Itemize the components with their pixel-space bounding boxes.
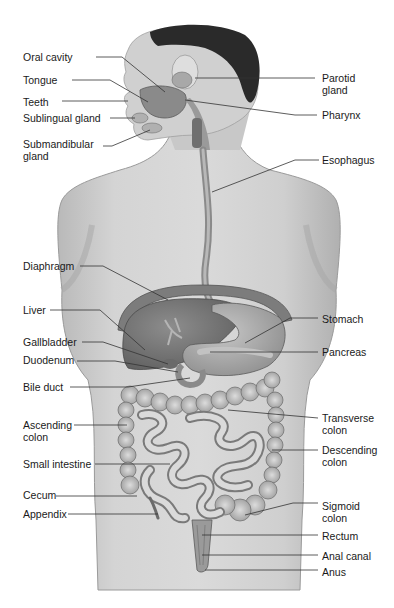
label-small-intestine: Small intestine bbox=[23, 458, 91, 470]
label-esophagus: Esophagus bbox=[322, 154, 375, 166]
label-parotid-gland: Parotid gland bbox=[322, 72, 355, 96]
label-oral-cavity: Oral cavity bbox=[23, 51, 73, 63]
label-appendix: Appendix bbox=[23, 508, 67, 520]
label-pancreas: Pancreas bbox=[322, 346, 366, 358]
gallbladder bbox=[162, 359, 178, 369]
label-cecum: Cecum bbox=[23, 489, 56, 501]
label-sublingual-gland: Sublingual gland bbox=[23, 112, 101, 124]
label-anal-canal: Anal canal bbox=[322, 550, 371, 562]
label-gallbladder: Gallbladder bbox=[23, 336, 77, 348]
label-diaphragm: Diaphragm bbox=[23, 260, 74, 272]
label-rectum: Rectum bbox=[322, 530, 358, 542]
label-bile-duct: Bile duct bbox=[23, 381, 63, 393]
label-sigmoid-colon: Sigmoid colon bbox=[322, 500, 360, 524]
label-descending-colon: Descending colon bbox=[322, 444, 377, 468]
digestive-system-diagram: Oral cavityTongueTeethSublingual glandSu… bbox=[0, 0, 394, 608]
label-duodenum: Duodenum bbox=[23, 354, 74, 366]
label-submandibular-gland: Submandibular gland bbox=[23, 138, 94, 162]
label-tongue: Tongue bbox=[23, 74, 57, 86]
label-liver: Liver bbox=[23, 304, 46, 316]
label-anus: Anus bbox=[322, 566, 346, 578]
label-transverse-colon: Transverse colon bbox=[322, 412, 374, 436]
label-pharynx: Pharynx bbox=[322, 109, 361, 121]
label-stomach: Stomach bbox=[322, 313, 363, 325]
label-ascending-colon: Ascending colon bbox=[23, 419, 72, 443]
label-teeth: Teeth bbox=[23, 96, 49, 108]
